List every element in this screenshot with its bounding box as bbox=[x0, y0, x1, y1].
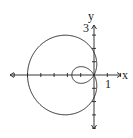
y-tick-label-3: 3 bbox=[83, 21, 89, 35]
polar-graph: x y 1 3 bbox=[0, 0, 133, 138]
x-axis-label: x bbox=[122, 68, 128, 82]
x-tick-label-1: 1 bbox=[105, 77, 111, 91]
